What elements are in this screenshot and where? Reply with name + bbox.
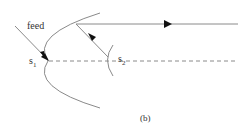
s2-sub: 2 bbox=[122, 59, 126, 67]
caption: (b) bbox=[140, 113, 151, 123]
s1-sub: 1 bbox=[33, 61, 37, 69]
s2-label: s2 bbox=[118, 53, 126, 67]
s1-label: s1 bbox=[29, 55, 37, 69]
diagram-canvas: feed s1 s2 (b) bbox=[0, 0, 250, 128]
output-arrow-icon bbox=[164, 20, 172, 28]
feed-label: feed bbox=[27, 20, 44, 31]
